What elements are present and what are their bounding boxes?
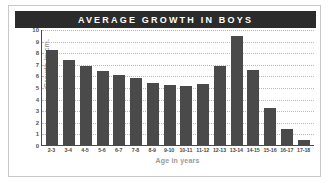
bar-slot: [279, 30, 296, 145]
bar-slot: [111, 30, 128, 145]
plot-canvas: [41, 30, 314, 146]
x-axis-tick-label: 10-11: [178, 147, 195, 153]
y-axis-tick-label: 3: [36, 108, 39, 114]
x-axis-label: Age in years: [41, 157, 314, 164]
bar: [63, 60, 75, 145]
bar-slot: [44, 30, 61, 145]
y-axis-tick-label: 0: [36, 143, 39, 149]
x-axis-tick-label: 11-12: [194, 147, 211, 153]
bar: [130, 78, 142, 145]
bar-slot: [228, 30, 245, 145]
y-axis-tick-label: 10: [32, 27, 39, 33]
y-axis-tick-label: 9: [36, 39, 39, 45]
bar-slot: [145, 30, 162, 145]
bar: [231, 36, 243, 145]
y-axis-tick-label: 7: [36, 62, 39, 68]
x-axis-tick-label: 4-5: [77, 147, 94, 153]
x-axis-tick-label: 8-9: [144, 147, 161, 153]
chart-title-bar: AVERAGE GROWTH IN BOYS: [15, 11, 316, 28]
bar: [46, 50, 58, 145]
bar-slot: [61, 30, 78, 145]
x-axis-tick-label: 14-15: [245, 147, 262, 153]
bar: [281, 129, 293, 145]
y-axis-ticks: 012345678910: [27, 30, 40, 146]
bar: [264, 108, 276, 145]
bar-slot: [161, 30, 178, 145]
x-axis-tick-label: 3-4: [60, 147, 77, 153]
y-axis-tick-label: 4: [36, 97, 39, 103]
bar: [180, 86, 192, 145]
x-axis-tick-label: 15-16: [262, 147, 279, 153]
y-axis-tick-label: 1: [36, 131, 39, 137]
bar: [113, 75, 125, 145]
x-axis-tick-label: 7-8: [127, 147, 144, 153]
bar-slot: [245, 30, 262, 145]
bar: [197, 84, 209, 145]
x-axis-tick-label: 16-17: [278, 147, 295, 153]
bar-slot: [78, 30, 95, 145]
chart-card: AVERAGE GROWTH IN BOYS Growth in cm. 012…: [8, 5, 321, 177]
bar-series: [42, 30, 314, 145]
x-axis-tick-label: 13-14: [228, 147, 245, 153]
bar: [164, 85, 176, 145]
bar: [80, 66, 92, 145]
bar-slot: [295, 30, 312, 145]
bar: [298, 140, 310, 145]
x-axis-ticks: 2-33-44-55-66-77-88-99-1010-1111-1212-13…: [41, 147, 314, 153]
bar-slot: [94, 30, 111, 145]
x-axis-tick-label: 17-18: [295, 147, 312, 153]
bar-slot: [128, 30, 145, 145]
y-axis-tick-label: 5: [36, 85, 39, 91]
bar: [214, 66, 226, 145]
plot-area: Growth in cm. 012345678910 2-33-44-55-66…: [15, 30, 316, 172]
y-axis-tick-label: 6: [36, 73, 39, 79]
bar-slot: [178, 30, 195, 145]
x-axis-tick-label: 5-6: [93, 147, 110, 153]
y-axis-tick-label: 8: [36, 50, 39, 56]
bar-slot: [195, 30, 212, 145]
y-axis-tick-label: 2: [36, 120, 39, 126]
x-axis-tick-label: 6-7: [110, 147, 127, 153]
bar-slot: [262, 30, 279, 145]
bar: [247, 70, 259, 145]
page-title: AVERAGE GROWTH IN BOYS: [78, 15, 253, 25]
x-axis-tick-label: 9-10: [161, 147, 178, 153]
bar: [147, 83, 159, 145]
bar-slot: [212, 30, 229, 145]
bar: [97, 71, 109, 145]
x-axis-tick-label: 2-3: [43, 147, 60, 153]
x-axis-tick-label: 12-13: [211, 147, 228, 153]
